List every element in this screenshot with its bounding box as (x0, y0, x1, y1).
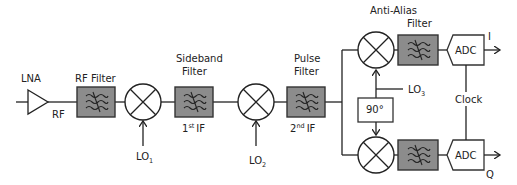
sideband-label-line2: Filter (182, 66, 208, 77)
sideband-label-line1: Sideband (176, 53, 223, 64)
pulse-label-line1: Pulse (294, 53, 320, 64)
phase-shift-label: 90° (366, 104, 384, 115)
second-if-label: 2ndIF (290, 122, 316, 134)
lo3-label: LO3 (408, 84, 425, 98)
clock-label: Clock (455, 94, 482, 105)
lna-amplifier-icon (28, 90, 48, 114)
lo2-label: LO2 (249, 155, 266, 169)
mixer-i-icon (358, 32, 394, 68)
anti-alias-filter-q-block (398, 140, 438, 170)
adc-q-block: ADC (447, 140, 484, 170)
i-output-label: I (488, 31, 491, 42)
receiver-block-diagram: LNA RF RF Filter LO1 Sideband Filter 1st… (0, 0, 517, 185)
anti-alias-label-line1: Anti-Alias (370, 5, 417, 16)
anti-alias-filter-i-block (398, 35, 438, 65)
adc-i-block: ADC (447, 35, 484, 65)
mixer-q-icon (358, 137, 394, 173)
q-output-label: Q (486, 169, 494, 180)
mixer-2-icon (238, 84, 274, 120)
first-if-label: 1stIF (182, 122, 205, 134)
phase-shifter-90-block: 90° (358, 98, 393, 122)
sideband-filter-block (175, 87, 213, 117)
adc-q-label: ADC (455, 150, 477, 161)
rf-filter-label: RF Filter (75, 73, 117, 84)
mixer-1-icon (125, 84, 161, 120)
rf-filter-block (77, 87, 115, 117)
adc-i-label: ADC (455, 45, 477, 56)
lo1-label: LO1 (136, 151, 153, 165)
rf-signal-label: RF (52, 109, 65, 120)
pulse-filter-block (287, 87, 325, 117)
anti-alias-label-line2: Filter (407, 18, 433, 29)
pulse-label-line2: Filter (294, 66, 320, 77)
lna-label: LNA (21, 73, 41, 84)
